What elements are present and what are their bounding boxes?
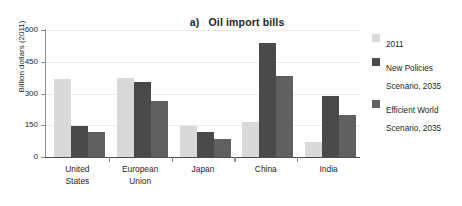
bar — [180, 126, 197, 157]
bar — [259, 43, 276, 157]
bar-group — [242, 30, 293, 157]
legend-swatch-icon — [372, 58, 380, 66]
bar — [54, 79, 71, 157]
chart-figure: a)Oil import bills Billion dollars (2011… — [0, 0, 462, 206]
x-tick-mark — [109, 157, 110, 162]
bar — [339, 115, 356, 157]
y-tick-label: 150 — [0, 120, 38, 129]
y-tick-label: 600 — [0, 25, 38, 34]
legend-swatch-icon — [372, 100, 380, 108]
y-tick-label: 450 — [0, 57, 38, 66]
legend-label: 2011 — [386, 40, 404, 49]
plot-area — [46, 30, 360, 157]
bar — [305, 142, 322, 157]
x-tick-mark — [234, 157, 235, 162]
legend-swatch-icon — [372, 34, 380, 42]
y-tick-label: 0 — [0, 152, 38, 161]
x-category-label-line: Union — [102, 176, 178, 188]
legend-item[interactable]: New Policies Scenario, 2035 — [372, 57, 462, 93]
x-tick-mark — [297, 157, 298, 162]
bar-group — [54, 30, 105, 157]
bar — [151, 101, 168, 157]
legend-item[interactable]: Efficient World Scenario, 2035 — [372, 99, 462, 135]
y-tick-label: 300 — [0, 89, 38, 98]
legend-item[interactable]: 2011 — [372, 33, 462, 51]
chart-title-text: Oil import bills — [209, 16, 285, 28]
legend-label: Efficient World Scenario, 2035 — [386, 106, 441, 133]
x-category-label: India — [291, 164, 367, 176]
bar — [214, 139, 231, 157]
legend-label: New Policies Scenario, 2035 — [386, 64, 441, 91]
bar-group — [305, 30, 356, 157]
x-category-label-line: India — [291, 164, 367, 176]
x-axis-line — [45, 157, 360, 159]
bar-group — [180, 30, 231, 157]
bar — [197, 132, 214, 157]
bar — [88, 132, 105, 157]
x-tick-mark — [172, 157, 173, 162]
bar — [276, 76, 293, 157]
bar — [242, 122, 259, 157]
bar — [134, 82, 151, 157]
chart-legend: 2011New Policies Scenario, 2035Efficient… — [372, 33, 462, 141]
bar — [117, 78, 134, 157]
bar — [71, 126, 88, 157]
chart-title-index: a) — [190, 16, 200, 28]
bar — [322, 96, 339, 157]
bar-group — [117, 30, 168, 157]
